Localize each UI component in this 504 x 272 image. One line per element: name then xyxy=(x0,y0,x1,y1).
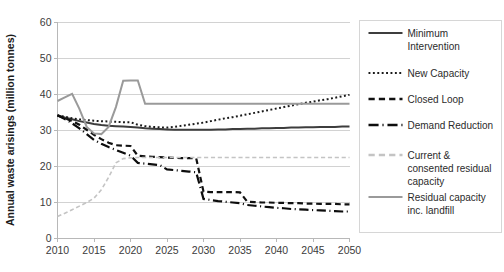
y-tick-label: 50 xyxy=(40,52,52,64)
x-tick-label: 2045 xyxy=(301,244,325,256)
chart-legend: MinimumInterventionNew CapacityClosed Lo… xyxy=(360,21,502,233)
x-tick-label: 2040 xyxy=(265,244,289,256)
legend-label-4: consented residual xyxy=(408,163,492,174)
y-tick-label: 40 xyxy=(40,88,52,100)
line-chart: 0102030405060 20102015202020252030203520… xyxy=(0,0,504,272)
y-axis-title: Annual waste arisings (million tonnes) xyxy=(4,34,16,226)
legend-label-5: Residual capacity xyxy=(408,192,486,203)
legend-label-4: capacity xyxy=(408,176,445,187)
legend-label-2: Closed Loop xyxy=(408,94,465,105)
y-tick-label: 60 xyxy=(40,16,52,28)
y-tick-label: 30 xyxy=(40,124,52,136)
chart-container: 0102030405060 20102015202020252030203520… xyxy=(0,0,504,272)
legend-label-5: inc. landfill xyxy=(408,205,455,216)
x-tick-label: 2015 xyxy=(82,244,106,256)
legend-label-4: Current & xyxy=(408,150,451,161)
x-tick-label: 2020 xyxy=(119,244,143,256)
y-tick-label: 20 xyxy=(40,160,52,172)
x-tick-label: 2010 xyxy=(46,244,70,256)
legend-label-3: Demand Reduction xyxy=(408,120,494,131)
y-tick-label: 10 xyxy=(40,196,52,208)
legend-label-0: Intervention xyxy=(408,41,460,52)
legend-label-1: New Capacity xyxy=(408,68,470,79)
y-tick-label: 0 xyxy=(46,232,52,244)
x-tick-label: 2050 xyxy=(338,244,362,256)
x-tick-label: 2030 xyxy=(192,244,216,256)
legend-label-0: Minimum xyxy=(408,28,449,39)
x-tick-label: 2025 xyxy=(155,244,179,256)
x-tick-label: 2035 xyxy=(228,244,252,256)
